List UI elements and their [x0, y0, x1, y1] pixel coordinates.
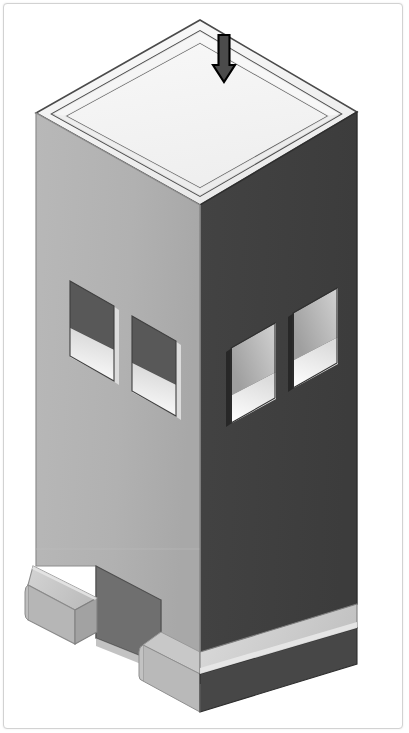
base-pad-right-corner-round [139, 645, 143, 681]
right-wall-face [200, 112, 357, 684]
base-pad-left-corner-round [25, 585, 28, 620]
screenshot-root: Isometric CAD part view hollow rectangul… [0, 0, 409, 733]
right-wall-group [200, 112, 357, 684]
base-pad-left [25, 566, 97, 644]
cad-model-view [0, 0, 409, 733]
